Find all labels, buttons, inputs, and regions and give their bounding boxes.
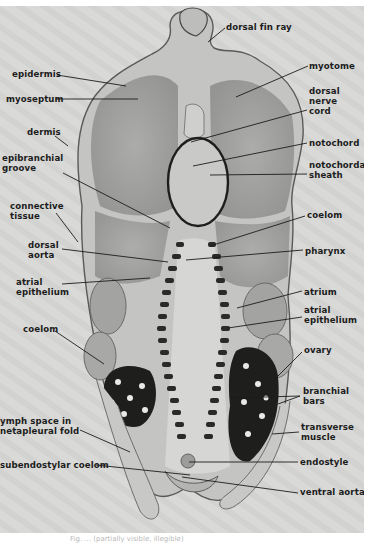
label-notochordal-sheath: notochordal sheath <box>309 160 364 180</box>
label-atrial-epithelium-left: atrial epithelium <box>16 277 69 297</box>
label-ovary: ovary <box>304 345 332 355</box>
label-pharynx: pharynx <box>305 246 345 256</box>
label-epidermis: epidermis <box>12 69 61 79</box>
label-myotome: myotome <box>309 61 355 71</box>
label-lymph-space-metapleural-fold: ymph space in netapleural fold <box>0 416 79 436</box>
label-transverse-muscle: transverse muscle <box>301 422 354 442</box>
label-connective-tissue: connective tissue <box>10 201 64 221</box>
label-notochord: notochord <box>309 138 359 148</box>
label-myoseptum: myoseptum <box>6 94 64 104</box>
label-dorsal-fin-ray: dorsal fin ray <box>226 22 292 32</box>
label-atrium: atrium <box>304 287 337 297</box>
label-dermis: dermis <box>27 127 61 137</box>
label-atrial-epithelium-right: atrial epithelium <box>304 305 357 325</box>
label-endostyle: endostyle <box>300 457 349 467</box>
label-subendostylar-coelom: subendostylar coelom <box>0 460 109 470</box>
label-ventral-aorta: ventral aorta <box>300 487 364 497</box>
figure-caption: Fig. ... (partially visible, illegible) <box>70 535 184 543</box>
label-branchial-bars: branchial bars <box>303 386 349 406</box>
label-dorsal-nerve-cord: dorsal nerve cord <box>309 86 340 116</box>
label-coelom-lower: coelom <box>23 324 58 334</box>
label-dorsal-aorta: dorsal aorta <box>28 240 59 260</box>
notochord-shape <box>168 138 228 226</box>
label-epibranchial-groove: epibranchial groove <box>2 153 63 173</box>
label-coelom-upper: coelom <box>307 210 342 220</box>
micrograph-figure: dorsal fin rayepidermismyotomemyoseptumd… <box>0 6 364 533</box>
